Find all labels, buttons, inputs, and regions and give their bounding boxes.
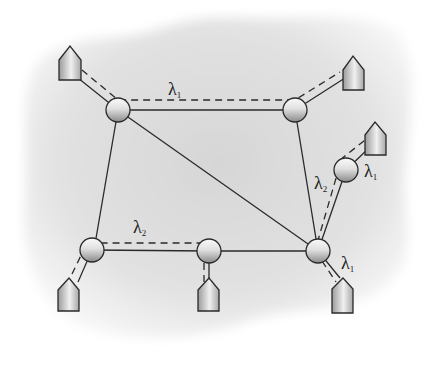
lambda-symbol: λ	[341, 253, 350, 273]
router-node-a	[106, 98, 130, 122]
wavelength-label-lambda1-bottom-right: λ1	[341, 254, 354, 274]
network-diagram	[0, 0, 435, 379]
lambda-symbol: λ	[314, 173, 323, 193]
lambda-subscript: 1	[373, 172, 378, 182]
lambda-symbol: λ	[364, 161, 373, 181]
wavelength-label-lambda1-right: λ1	[364, 162, 377, 182]
router-node-c	[334, 158, 358, 182]
lambda-subscript: 1	[350, 264, 355, 274]
wavelength-label-lambda2-bottom: λ2	[133, 218, 146, 238]
router-node-d	[306, 239, 330, 263]
lambda-subscript: 2	[323, 184, 328, 194]
lambda-subscript: 1	[177, 90, 182, 100]
lambda-symbol: λ	[133, 217, 142, 237]
router-node-f	[197, 239, 221, 263]
wavelength-label-lambda1-top: λ1	[168, 80, 181, 100]
lambda-symbol: λ	[168, 79, 177, 99]
lambda-subscript: 2	[142, 228, 147, 238]
wavelength-label-lambda2-right: λ2	[314, 174, 327, 194]
router-node-e	[80, 238, 104, 262]
router-node-b	[283, 98, 307, 122]
